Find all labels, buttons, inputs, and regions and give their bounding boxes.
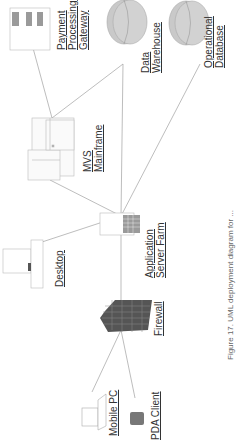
label-line: Firewall (153, 302, 164, 336)
label-application-server-farm: Application Server Farm (144, 222, 166, 278)
label-pda-client: PDA Client (150, 392, 161, 440)
label-line: Database (214, 16, 225, 68)
deployment-diagram: Payment Processing Gateway Data Warehous… (0, 0, 236, 444)
brick-wall-icon (100, 300, 152, 332)
label-line: MVS (82, 125, 93, 172)
label-data-warehouse: Data Warehouse (140, 22, 162, 73)
label-line: Application (144, 222, 155, 278)
label-line: Gateway (78, 1, 89, 50)
label-line: Server Farm (155, 222, 166, 278)
label-desktop: Desktop (54, 250, 65, 287)
server-rack-icon (10, 8, 50, 50)
diagram-graphics (0, 0, 236, 444)
label-payment-gateway: Payment Processing Gateway (56, 1, 89, 50)
label-firewall: Firewall (153, 302, 164, 336)
label-operational-database: Operational Database (203, 16, 225, 68)
label-line: Mainframe (93, 125, 104, 172)
laptop-icon (82, 394, 106, 430)
server-tower-icon (100, 213, 140, 235)
label-line: Desktop (54, 250, 65, 287)
label-line: Mobile PC (108, 390, 119, 436)
figure-caption: Figure 17. UML deployment diagram for ..… (226, 210, 235, 360)
label-mvs-mainframe: MVS Mainframe (82, 125, 104, 172)
pda-icon (130, 412, 144, 425)
label-mobile-pc: Mobile PC (108, 390, 119, 436)
label-line: Warehouse (151, 22, 162, 73)
label-line: Payment (56, 1, 67, 50)
label-line: Operational (203, 16, 214, 68)
label-line: Processing (67, 1, 78, 50)
mainframe-icon (28, 118, 74, 180)
label-line: Data (140, 22, 151, 73)
label-line: PDA Client (150, 392, 161, 440)
desktop-computer-icon (3, 240, 43, 288)
